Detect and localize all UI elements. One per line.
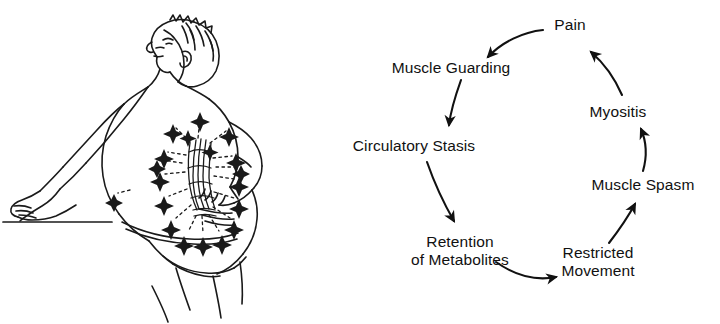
edge-pain-to-muscle-guarding (488, 30, 543, 57)
node-muscle-guarding-label: Muscle Guarding (392, 59, 511, 77)
edge-circulatory-stasis-to-retention (427, 162, 454, 221)
node-circulatory-stasis-label: Circulatory Stasis (353, 137, 475, 155)
cycle-arrows (330, 0, 720, 324)
edge-muscle-guarding-to-circulatory-stasis (449, 80, 461, 125)
node-myositis-label: Myositis (590, 103, 647, 121)
node-restricted-movement-line-2: Movement (561, 262, 634, 280)
node-pain: Pain (554, 16, 585, 34)
pain-spasm-cycle-diagram: Pain Muscle Guarding Circulatory Stasis … (330, 0, 720, 324)
node-retention-line-2: of Metabolites (411, 251, 509, 269)
node-retention-line-1: Retention (411, 233, 509, 251)
edge-restricted-movement-to-muscle-spasm (609, 204, 635, 243)
node-muscle-guarding: Muscle Guarding (392, 59, 511, 77)
node-muscle-spasm: Muscle Spasm (592, 176, 695, 194)
node-pain-label: Pain (554, 16, 585, 34)
node-restricted-movement-line-1: Restricted (561, 244, 634, 262)
node-circulatory-stasis: Circulatory Stasis (353, 137, 475, 155)
back-pain-patient-illustration (0, 0, 330, 324)
pain-cycle-figure: Pain Muscle Guarding Circulatory Stasis … (0, 0, 720, 324)
edge-muscle-spasm-to-myositis (641, 129, 646, 171)
node-myositis: Myositis (590, 103, 647, 121)
edge-myositis-to-pain (591, 52, 622, 95)
node-muscle-spasm-label: Muscle Spasm (592, 176, 695, 194)
node-retention-of-metabolites: Retention of Metabolites (411, 233, 509, 269)
node-restricted-movement: Restricted Movement (561, 244, 634, 280)
